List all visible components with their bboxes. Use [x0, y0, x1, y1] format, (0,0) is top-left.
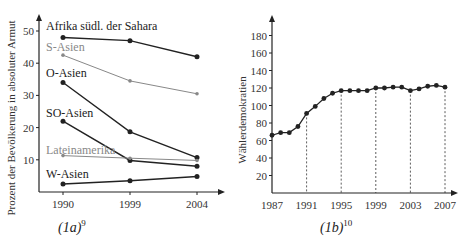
series-label: Afrika südl. der Sahara [46, 19, 158, 33]
data-point [347, 88, 352, 93]
caption-1b-footnote: 10 [343, 218, 352, 228]
data-point [195, 164, 200, 169]
data-point [61, 181, 66, 186]
data-point [128, 178, 133, 183]
y-axis-label-1a: Prozent der Bevölkerung in absoluter Arm… [5, 20, 17, 215]
data-point [278, 130, 283, 135]
caption-1b: (1b)10 [320, 218, 352, 236]
y-tick-label-1b: 120 [251, 82, 268, 94]
y-tick-label-1b: 80 [256, 117, 268, 129]
data-point [330, 91, 335, 96]
data-point [434, 83, 439, 88]
data-point [287, 130, 292, 135]
data-point [425, 84, 430, 89]
y-tick-label-1b: 140 [251, 65, 268, 77]
chart-1b [269, 15, 458, 196]
data-point [128, 38, 133, 43]
data-point [408, 88, 413, 93]
data-point [128, 79, 132, 83]
caption-1a-footnote: 9 [81, 218, 86, 228]
data-point [195, 92, 199, 96]
data-point [356, 88, 361, 93]
x-axis-arrow-icon [451, 190, 458, 196]
caption-1a: (1a)9 [58, 218, 86, 236]
y-axis-arrow-icon [269, 15, 275, 22]
data-point [195, 54, 200, 59]
y-tick-label-1b: 160 [251, 47, 268, 59]
data-point [382, 86, 387, 91]
data-point [61, 80, 66, 85]
y-tick-label-1b: 20 [256, 170, 268, 182]
y-axis-arrow-icon [36, 14, 42, 21]
series-label: W-Asien [46, 167, 89, 181]
x-tick-label-1b: 2003 [399, 199, 422, 211]
data-point [373, 86, 378, 91]
y-axis-label-1b: Wählerdemokratien [236, 76, 248, 164]
data-point [195, 159, 199, 163]
data-point [339, 88, 344, 93]
data-point [443, 85, 448, 90]
y-tick-label-1a: 50 [23, 25, 35, 37]
y-tick-label-1b: 100 [251, 100, 268, 112]
series-label: Lateinamerika [46, 143, 116, 157]
data-point [304, 111, 309, 116]
y-tick-label-1a: 20 [23, 122, 35, 134]
caption-1a-text: (1a) [58, 220, 81, 235]
data-point [296, 124, 301, 129]
caption-1b-text: (1b) [320, 220, 343, 235]
x-tick-label-1a: 1999 [119, 198, 142, 210]
data-point [365, 88, 370, 93]
data-point [270, 133, 275, 138]
data-point [399, 85, 404, 90]
y-tick-label-1b: 40 [256, 152, 268, 164]
x-tick-label-1a: 2004 [186, 198, 209, 210]
y-tick-label-1a: 30 [23, 89, 35, 101]
data-point [128, 129, 133, 134]
x-tick-label-1b: 1999 [365, 199, 388, 211]
y-tick-label-1a: 10 [23, 154, 35, 166]
x-tick-label-1a: 1990 [52, 198, 75, 210]
data-point [128, 156, 132, 160]
y-tick-label-1b: 180 [251, 30, 268, 42]
data-point [195, 174, 200, 179]
x-tick-label-1b: 1995 [330, 199, 353, 211]
data-point [391, 85, 396, 90]
series-label: O-Asien [46, 66, 87, 80]
data-point [417, 86, 422, 91]
y-tick-label-1a: 40 [23, 57, 35, 69]
series-label: SO-Asien [46, 106, 93, 120]
data-point [322, 96, 327, 101]
x-tick-label-1b: 1987 [261, 199, 284, 211]
data-point [313, 104, 318, 109]
x-axis-arrow-icon [218, 189, 225, 195]
series-label: S-Asien [46, 40, 85, 54]
y-tick-label-1b: 60 [256, 135, 268, 147]
x-tick-label-1b: 2007 [434, 199, 457, 211]
x-tick-label-1b: 1991 [296, 199, 318, 211]
charts-canvas: 1020304050199019992004Prozent der Bevölk… [0, 0, 471, 247]
